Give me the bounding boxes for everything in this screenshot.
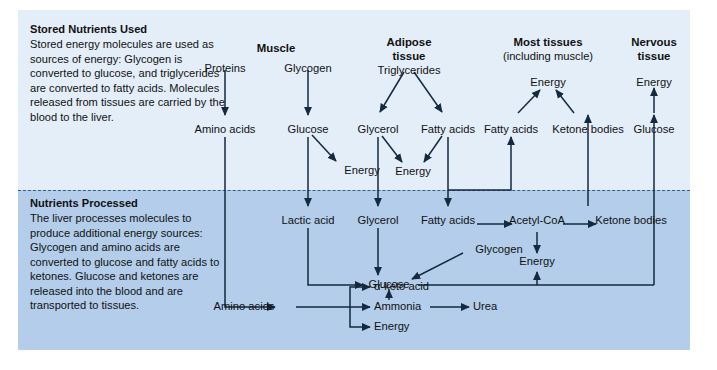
panel-stored-nutrients: Stored Nutrients Used Stored energy mole… <box>30 22 226 124</box>
node-most-tissues-ketone-bodies: Ketone bodies <box>552 123 624 136</box>
node-muscle-amino-acids: Amino acids <box>195 123 256 136</box>
node-liver-ketone-bodies: Ketone bodies <box>595 214 667 227</box>
column-header-most-tissues-sub: (including muscle) <box>503 50 593 63</box>
column-header-adipose-line1: Adipose <box>387 36 432 49</box>
column-header-muscle: Muscle <box>257 42 296 55</box>
panel-processed-body: The liver processes molecules to produce… <box>30 212 219 311</box>
node-liver-ammonia: Ammonia <box>374 300 421 313</box>
node-liver-energy: Energy <box>519 255 554 268</box>
node-adipose-energy: Energy <box>395 165 430 178</box>
node-liver-energy-2: Energy <box>374 320 409 333</box>
node-most-tissues-fatty-acids: Fatty acids <box>484 123 538 136</box>
node-adipose-fatty-acids: Fatty acids <box>421 123 475 136</box>
node-liver-glycerol: Glycerol <box>357 214 398 227</box>
node-liver-amino-acids: Amino acids <box>214 300 275 313</box>
column-header-adipose-line2: tissue <box>393 50 426 63</box>
column-header-most-tissues: Most tissues <box>514 36 583 49</box>
panel-stored-body: Stored energy molecules are used as sour… <box>30 38 225 122</box>
node-liver-glycogen: Glycogen <box>475 243 522 256</box>
column-header-nervous-line1: Nervous <box>631 36 677 49</box>
node-muscle-glucose: Glucose <box>287 123 328 136</box>
metabolism-figure: Stored Nutrients Used Stored energy mole… <box>18 10 690 350</box>
node-nervous-glucose: Glucose <box>633 123 674 136</box>
node-liver-fatty-acids: Fatty acids <box>421 214 475 227</box>
node-muscle-proteins: Proteins <box>204 62 245 75</box>
panel-nutrients-processed: Nutrients Processed The liver processes … <box>30 196 226 312</box>
node-liver-keto-acid: α-keto acid <box>374 280 429 293</box>
node-liver-acetyl-coa: Acetyl-CoA <box>509 214 565 227</box>
node-liver-lactic-acid: Lactic acid <box>282 214 335 227</box>
panel-processed-title: Nutrients Processed <box>30 196 226 210</box>
node-muscle-glycogen: Glycogen <box>284 62 331 75</box>
node-adipose-glycerol: Glycerol <box>357 123 398 136</box>
node-muscle-energy: Energy <box>344 164 379 177</box>
panel-stored-title: Stored Nutrients Used <box>30 22 226 36</box>
node-nervous-energy: Energy <box>636 76 671 89</box>
column-header-nervous-line2: tissue <box>638 50 671 63</box>
node-liver-urea: Urea <box>473 300 497 313</box>
node-adipose-triglycerides: Triglycerides <box>378 64 441 77</box>
node-most-tissues-energy: Energy <box>530 76 565 89</box>
